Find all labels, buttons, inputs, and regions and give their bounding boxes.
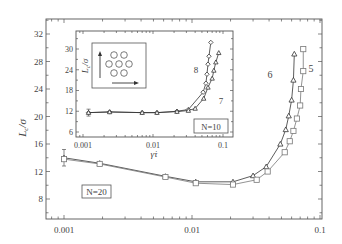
- x-tick-label: 0.001: [54, 225, 74, 235]
- y-tick-label: 32: [34, 29, 43, 39]
- x-tick-label: 0.001: [74, 141, 92, 150]
- square-marker: [193, 181, 198, 186]
- y-tick-label: 18: [65, 86, 73, 95]
- x-tick-label: 0.1: [314, 225, 325, 235]
- chart: 0.0010.010.18121620242832 0.0010.010.161…: [0, 0, 342, 244]
- x-tick-label: 0.01: [184, 225, 200, 235]
- curve-label-7: 7: [219, 96, 224, 106]
- inset-plot: 0.0010.010.1612182430Lc/σγ̇τN=1087: [65, 31, 233, 159]
- y-tick-label: 24: [65, 66, 73, 75]
- particle-circle-icon: [106, 61, 113, 68]
- square-marker: [163, 174, 168, 179]
- particle-circle-icon: [111, 52, 118, 59]
- particle-circle-icon: [121, 70, 128, 77]
- particle-circle-icon: [126, 61, 133, 68]
- y-tick-label: 12: [34, 167, 43, 177]
- y-tick-label: 8: [39, 194, 44, 204]
- square-marker: [298, 103, 303, 108]
- square-marker: [230, 182, 235, 187]
- particle-circle-icon: [111, 70, 118, 77]
- triangle-marker: [278, 141, 283, 146]
- y-tick-label: 20: [34, 112, 44, 122]
- triangle-marker: [264, 164, 269, 169]
- curve-label-6: 6: [268, 69, 273, 80]
- y-tick-label: 12: [65, 107, 73, 116]
- square-marker: [298, 86, 303, 91]
- square-marker: [287, 139, 292, 144]
- main-y-axis-label: Lc/σ: [16, 119, 30, 138]
- y-tick-label: 24: [34, 84, 44, 94]
- square-marker: [265, 169, 270, 174]
- square-marker: [301, 47, 306, 52]
- particle-circle-icon: [121, 52, 128, 59]
- square-marker: [282, 150, 287, 155]
- inset-y-axis-label: Lc/σ: [80, 58, 91, 74]
- x-tick-label: 0.1: [218, 141, 228, 150]
- square-marker: [97, 161, 102, 166]
- curve-label-8: 8: [194, 65, 199, 75]
- n20-label: N=20: [86, 187, 107, 197]
- y-tick-label: 6: [69, 128, 73, 137]
- particle-circle-icon: [116, 61, 123, 68]
- y-tick-label: 16: [34, 139, 44, 149]
- y-tick-label: 30: [65, 45, 73, 54]
- n10-label: N=10: [201, 122, 220, 132]
- square-marker: [254, 177, 259, 182]
- square-marker: [301, 69, 306, 74]
- triangle-marker: [292, 51, 297, 56]
- square-marker: [294, 116, 299, 121]
- triangle-marker: [291, 77, 296, 82]
- square-marker: [291, 128, 296, 133]
- triangle-marker: [286, 113, 291, 118]
- curve-label-5: 5: [309, 63, 314, 74]
- y-tick-label: 28: [34, 57, 44, 67]
- shear-schematic: [92, 43, 146, 88]
- triangle-marker: [289, 97, 294, 102]
- inset-x-axis-label: γ̇τ: [151, 149, 159, 159]
- triangle-marker: [283, 127, 288, 132]
- square-marker: [61, 157, 66, 162]
